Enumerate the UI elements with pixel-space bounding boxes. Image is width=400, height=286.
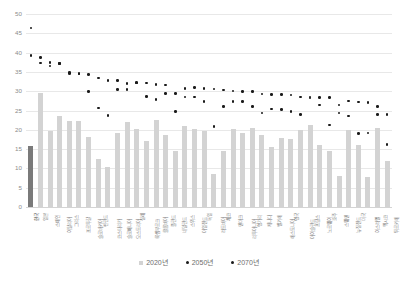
x-axis-tick-label: 벨기에 bbox=[278, 215, 283, 227]
data-point bbox=[184, 96, 187, 99]
x-axis-tick-label: 헝가리 bbox=[258, 215, 263, 227]
data-point bbox=[126, 82, 129, 85]
x-axis-tick-label: 오스트리아 bbox=[137, 219, 142, 239]
data-point bbox=[299, 113, 302, 116]
data-point bbox=[107, 114, 110, 117]
data-point bbox=[164, 92, 167, 95]
data-point bbox=[78, 72, 81, 75]
x-axis-tick-label: 칠레 bbox=[141, 213, 146, 221]
y-axis-tick-label: 50 bbox=[15, 11, 22, 17]
data-point bbox=[49, 65, 52, 68]
y-axis-tick-label: 25 bbox=[15, 107, 22, 113]
data-point bbox=[357, 132, 360, 135]
y-axis-tick-label: 10 bbox=[15, 165, 22, 171]
data-point bbox=[270, 108, 273, 111]
data-point bbox=[328, 124, 331, 127]
x-axis-tick-label: 스웨덴 bbox=[345, 215, 350, 227]
x-axis-tick-label: 에스토니아 bbox=[291, 219, 296, 239]
x-axis-tick-label: 호주 bbox=[333, 213, 338, 221]
y-axis-tick-label: 5 bbox=[19, 185, 22, 191]
x-axis-tick-label: 멕시코 bbox=[384, 215, 389, 227]
data-point bbox=[386, 143, 389, 146]
y-axis-tick-label: 45 bbox=[15, 30, 22, 36]
x-axis-tick-label: 캐나다 bbox=[268, 215, 273, 227]
data-point bbox=[318, 104, 321, 107]
x-axis-tick-label: 독일 bbox=[208, 213, 213, 221]
y-axis-tick-label: 30 bbox=[15, 88, 22, 94]
data-point bbox=[68, 71, 71, 74]
data-point bbox=[309, 97, 312, 100]
x-axis-tick-label: 네덜란드 bbox=[183, 217, 188, 233]
y-axis-tick-label: 15 bbox=[15, 146, 22, 152]
legend-label-2070: 2070년 bbox=[237, 259, 259, 266]
x-axis-tick-label: 콜롬비아 bbox=[164, 217, 169, 233]
data-point bbox=[174, 110, 177, 113]
x-axis-tick-label: 튀르키예 bbox=[395, 217, 400, 233]
y-axis-tick-label: 40 bbox=[15, 49, 22, 55]
gridline: 0 bbox=[26, 207, 392, 208]
x-axis-tick-label: 포르투갈 bbox=[87, 217, 92, 233]
data-point bbox=[39, 56, 42, 59]
x-axis-tick-label: 그리스 bbox=[75, 215, 80, 227]
data-point bbox=[213, 125, 216, 128]
legend-dot-swatch-icon bbox=[186, 261, 189, 264]
x-axis-tick-label: 스페인 bbox=[56, 215, 61, 227]
data-point bbox=[135, 82, 138, 85]
legend-label-2050: 2050년 bbox=[192, 259, 214, 266]
x-axis-tick-label: 슬로베니아 bbox=[128, 219, 133, 239]
x-axis-tick-label: 영국 bbox=[295, 213, 300, 221]
x-axis-tick-label: 프랑스 bbox=[316, 215, 321, 227]
legend-bar-swatch-icon bbox=[139, 261, 143, 265]
x-axis-tick-label: 체코 bbox=[227, 213, 232, 221]
x-axis-labels: 한국일본스페인이탈리아그리스포르투갈슬로바키아핀란드코스타리카슬로베니아오스트리… bbox=[26, 209, 392, 254]
data-point bbox=[241, 100, 244, 103]
x-axis-tick-label: 일본 bbox=[44, 213, 49, 221]
data-point bbox=[145, 95, 148, 98]
legend-dot-swatch-icon bbox=[231, 261, 234, 264]
data-point bbox=[193, 96, 196, 99]
scatter-series-2070 bbox=[26, 14, 392, 207]
x-axis-tick-label: 코스타리카 bbox=[118, 219, 123, 239]
x-axis-tick-label: 미국 bbox=[362, 213, 367, 221]
data-point bbox=[338, 112, 341, 115]
data-point bbox=[290, 110, 293, 113]
legend-item-2050[interactable]: 2050년 bbox=[186, 259, 214, 266]
data-point bbox=[261, 112, 264, 115]
data-point bbox=[232, 100, 235, 103]
x-axis-tick-label: 한국 bbox=[35, 213, 40, 221]
data-point bbox=[367, 132, 370, 135]
x-axis-tick-label: 스위스 bbox=[191, 215, 196, 227]
x-axis-tick-label: 덴마크 bbox=[239, 215, 244, 227]
x-axis-tick-label: 폴란드 bbox=[172, 215, 177, 227]
data-point bbox=[347, 115, 350, 118]
y-axis-tick-label: 20 bbox=[15, 127, 22, 133]
data-point bbox=[222, 105, 225, 108]
legend-label-2020: 2020년 bbox=[146, 259, 168, 266]
data-point bbox=[116, 79, 119, 82]
data-point bbox=[97, 107, 100, 110]
data-point bbox=[58, 62, 61, 65]
data-point bbox=[87, 90, 90, 93]
data-point bbox=[280, 108, 283, 111]
legend-item-2070[interactable]: 2070년 bbox=[231, 259, 259, 266]
data-point bbox=[376, 113, 379, 116]
y-axis-tick-label: 0 bbox=[19, 204, 22, 210]
x-axis-tick-label: 핀란드 bbox=[104, 215, 109, 227]
plot-area: 05101520253035404550 bbox=[26, 14, 392, 207]
y-axis-tick-label: 35 bbox=[15, 69, 22, 75]
data-point bbox=[30, 27, 33, 30]
x-axis-tick-label: 이탈리아 bbox=[68, 217, 73, 233]
chart-legend: 2020년 2050년 2070년 bbox=[0, 259, 398, 266]
data-point bbox=[155, 98, 158, 101]
data-point bbox=[203, 100, 206, 103]
legend-item-2020[interactable]: 2020년 bbox=[139, 259, 168, 266]
x-axis-tick-label: 룩셈부르크 bbox=[156, 219, 161, 239]
data-point bbox=[251, 105, 254, 108]
x-axis-tick-label: 이스라엘 bbox=[376, 217, 381, 233]
